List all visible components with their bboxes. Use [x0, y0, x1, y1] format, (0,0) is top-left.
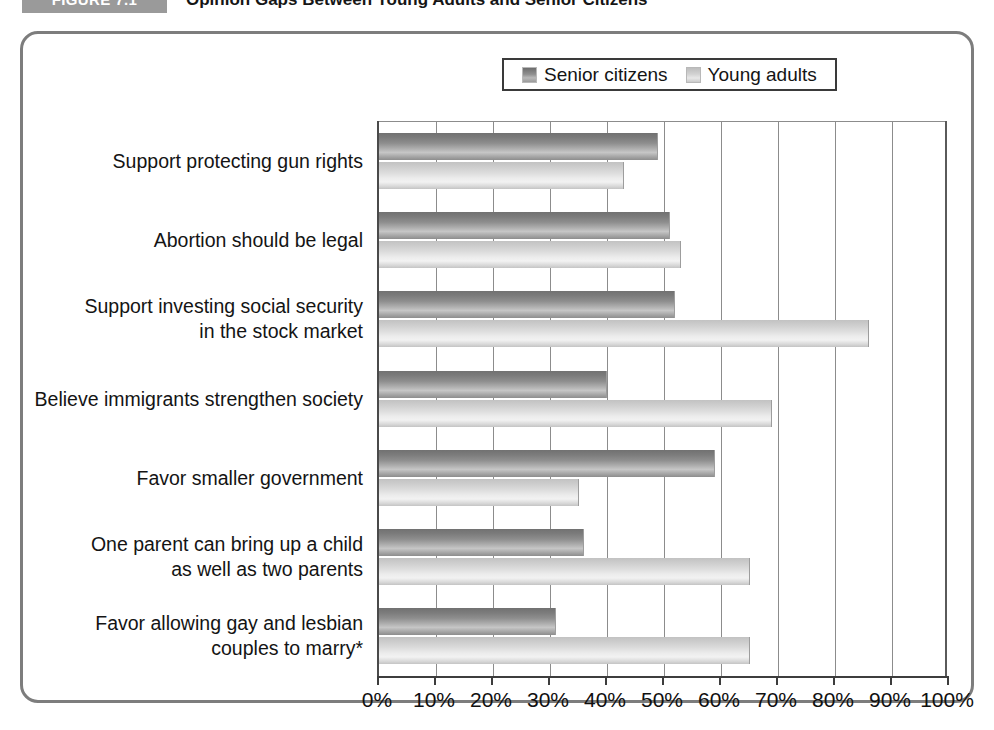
category-label-4: Favor smaller government [22, 465, 377, 490]
gridline-30 [550, 121, 551, 676]
bar-young-adults-0 [379, 162, 624, 189]
gridline-70 [778, 121, 779, 676]
legend-label-senior-citizens: Senior citizens [544, 64, 668, 86]
category-label-5: One parent can bring up a childas well a… [22, 532, 377, 582]
x-tick-label-30: 30% [527, 688, 569, 712]
bar-senior-citizens-2 [379, 291, 675, 318]
legend-item-senior-citizens[interactable]: Senior citizens [522, 64, 668, 86]
plot-area [377, 121, 947, 676]
x-tick-label-50: 50% [641, 688, 683, 712]
bar-young-adults-6 [379, 637, 750, 664]
chart-legend: Senior citizens Young adults [502, 58, 837, 91]
legend-swatch-senior-citizens-icon [522, 67, 537, 83]
category-label-1: Abortion should be legal [22, 227, 377, 252]
category-label-5-line-1: as well as two parents [22, 557, 363, 582]
figure-title: Opinion Gaps Between Young Adults and Se… [186, 0, 648, 13]
x-tick-20 [491, 676, 493, 685]
bar-young-adults-5 [379, 558, 750, 585]
category-label-2-line-1: in the stock market [22, 319, 363, 344]
category-label-4-line-0: Favor smaller government [22, 465, 363, 490]
x-tick-label-90: 90% [869, 688, 911, 712]
x-tick-50 [662, 676, 664, 685]
x-tick-60 [719, 676, 721, 685]
category-label-1-line-0: Abortion should be legal [22, 227, 363, 252]
category-label-6-line-0: Favor allowing gay and lesbian [22, 611, 363, 636]
category-label-2-line-0: Support investing social security [22, 294, 363, 319]
x-tick-label-0: 0% [362, 688, 392, 712]
bar-young-adults-1 [379, 241, 681, 268]
bar-senior-citizens-1 [379, 212, 670, 239]
figure-number-badge: FIGURE 7.1 [22, 0, 167, 13]
category-label-0: Support protecting gun rights [22, 148, 377, 173]
category-label-6: Favor allowing gay and lesbiancouples to… [22, 611, 377, 661]
x-tick-0 [377, 676, 379, 685]
category-axis-labels: Support protecting gun rightsAbortion sh… [0, 121, 377, 676]
bar-senior-citizens-0 [379, 133, 658, 160]
category-label-0-line-0: Support protecting gun rights [22, 148, 363, 173]
bar-senior-citizens-4 [379, 450, 715, 477]
x-tick-label-20: 20% [470, 688, 512, 712]
bar-senior-citizens-6 [379, 608, 556, 635]
figure-header: FIGURE 7.1 Opinion Gaps Between Young Ad… [0, 0, 994, 22]
bar-young-adults-2 [379, 320, 869, 347]
gridline-40 [607, 121, 608, 676]
gridline-80 [835, 121, 836, 676]
x-tick-90 [890, 676, 892, 685]
x-tick-label-10: 10% [413, 688, 455, 712]
x-tick-80 [833, 676, 835, 685]
x-tick-label-40: 40% [584, 688, 626, 712]
legend-swatch-young-adults-icon [686, 67, 701, 83]
category-label-5-line-0: One parent can bring up a child [22, 532, 363, 557]
x-tick-label-60: 60% [698, 688, 740, 712]
category-label-2: Support investing social securityin the … [22, 294, 377, 344]
category-label-6-line-1: couples to marry* [22, 636, 363, 661]
x-tick-70 [776, 676, 778, 685]
legend-label-young-adults: Young adults [708, 64, 817, 86]
plot-right-border [945, 121, 947, 676]
gridline-10 [436, 121, 437, 676]
x-tick-30 [548, 676, 550, 685]
bar-young-adults-4 [379, 479, 579, 506]
category-label-3-line-0: Believe immigrants strengthen society [22, 386, 363, 411]
category-label-3: Believe immigrants strengthen society [22, 386, 377, 411]
gridline-90 [892, 121, 893, 676]
x-tick-100 [947, 676, 949, 685]
gridline-20 [493, 121, 494, 676]
x-tick-label-70: 70% [755, 688, 797, 712]
bar-young-adults-3 [379, 400, 772, 427]
x-tick-10 [434, 676, 436, 685]
gridline-50 [664, 121, 665, 676]
x-tick-label-100: 100% [920, 688, 974, 712]
legend-item-young-adults[interactable]: Young adults [686, 64, 817, 86]
x-tick-40 [605, 676, 607, 685]
bar-senior-citizens-3 [379, 371, 607, 398]
plot-top-border [379, 121, 947, 122]
x-tick-label-80: 80% [812, 688, 854, 712]
bar-senior-citizens-5 [379, 529, 584, 556]
gridline-60 [721, 121, 722, 676]
